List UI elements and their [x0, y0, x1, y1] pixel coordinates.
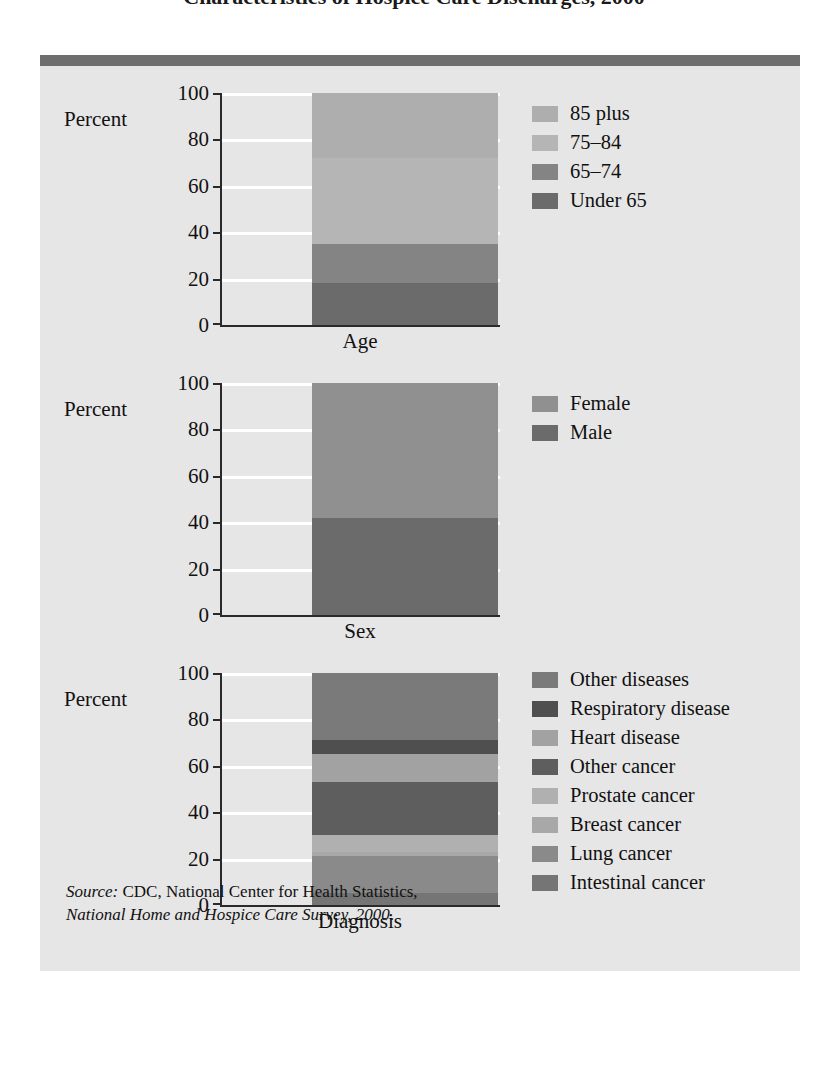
legend-swatch-icon [532, 164, 558, 180]
y-tick-label: 0 [199, 315, 210, 336]
source-note: Source: CDC, National Center for Health … [66, 881, 706, 927]
bar-segment [312, 283, 498, 325]
y-tick-label: 80 [188, 709, 209, 730]
legend-item[interactable]: Breast cancer [532, 810, 730, 839]
y-tick [213, 279, 220, 281]
y-tick [213, 429, 220, 431]
legend-swatch-icon [532, 846, 558, 862]
chart-age-x-axis [220, 325, 500, 327]
legend-item[interactable]: Lung cancer [532, 839, 730, 868]
source-line1: CDC, National Center for Health Statisti… [118, 882, 417, 901]
source-line2-tail: . [390, 905, 394, 924]
y-tick-label: 100 [178, 83, 210, 104]
y-tick-label: 60 [188, 175, 209, 196]
legend-label: 65–74 [570, 161, 621, 182]
legend-label: Heart disease [570, 727, 680, 748]
legend-swatch-icon [532, 701, 558, 717]
chart-diagnosis-ylabel: Percent [64, 687, 127, 712]
bar-segment [312, 244, 498, 283]
figure-panel: Percent 100 80 60 40 20 [40, 55, 800, 971]
figure-title-clipped: Characteristics of Hospice Care Discharg… [0, 0, 828, 16]
y-tick [213, 476, 220, 478]
legend-label: Other diseases [570, 669, 689, 690]
legend-swatch-icon [532, 425, 558, 441]
y-tick [213, 673, 220, 675]
y-tick-label: 80 [188, 419, 209, 440]
chart-sex-y-axis [220, 383, 222, 615]
chart-diagnosis-plot: 100 80 60 40 20 0 [220, 673, 500, 905]
legend-swatch-icon [532, 672, 558, 688]
stacked-bar-age [312, 93, 498, 325]
chart-age-plot: 100 80 60 40 20 0 [220, 93, 500, 325]
y-tick [213, 383, 220, 385]
legend-label: Respiratory disease [570, 698, 730, 719]
legend-label: Lung cancer [570, 843, 672, 864]
figure-page: Characteristics of Hospice Care Discharg… [0, 0, 828, 1088]
legend-label: 75–84 [570, 132, 621, 153]
bar-segment [312, 93, 498, 158]
legend-swatch-icon [532, 817, 558, 833]
chart-sex-plot: 100 80 60 40 20 0 [220, 383, 500, 615]
bar-segment [312, 158, 498, 244]
y-tick [213, 232, 220, 234]
chart-age: Percent 100 80 60 40 20 [40, 55, 800, 345]
legend-item[interactable]: Respiratory disease [532, 694, 730, 723]
bar-segment [312, 835, 498, 851]
y-tick [213, 613, 220, 615]
chart-sex-legend: FemaleMale [532, 389, 630, 447]
y-tick [213, 569, 220, 571]
legend-label: 85 plus [570, 103, 630, 124]
legend-label: Female [570, 393, 630, 414]
legend-item[interactable]: Other diseases [532, 665, 730, 694]
y-tick-label: 80 [188, 129, 209, 150]
legend-item[interactable]: Under 65 [532, 186, 647, 215]
y-tick-label: 60 [188, 755, 209, 776]
legend-label: Male [570, 422, 612, 443]
y-tick [213, 323, 220, 325]
legend-label: Under 65 [570, 190, 647, 211]
legend-item[interactable]: Male [532, 418, 630, 447]
y-tick-label: 40 [188, 802, 209, 823]
legend-swatch-icon [532, 788, 558, 804]
bar-segment [312, 383, 498, 518]
legend-swatch-icon [532, 106, 558, 122]
chart-diagnosis-legend: Other diseasesRespiratory diseaseHeart d… [532, 665, 730, 897]
y-tick [213, 93, 220, 95]
stacked-bar-diagnosis [312, 673, 498, 905]
legend-item[interactable]: Other cancer [532, 752, 730, 781]
legend-item[interactable]: 75–84 [532, 128, 647, 157]
y-tick [213, 719, 220, 721]
chart-sex-x-axis [220, 615, 500, 617]
legend-item[interactable]: 65–74 [532, 157, 647, 186]
legend-swatch-icon [532, 396, 558, 412]
bar-segment [312, 518, 498, 615]
source-prefix: Source: [66, 882, 118, 901]
y-tick [213, 859, 220, 861]
legend-item[interactable]: Heart disease [532, 723, 730, 752]
y-tick [213, 766, 220, 768]
legend-swatch-icon [532, 730, 558, 746]
legend-item[interactable]: Prostate cancer [532, 781, 730, 810]
y-tick-label: 20 [188, 848, 209, 869]
legend-label: Prostate cancer [570, 785, 695, 806]
chart-sex-ylabel: Percent [64, 397, 127, 422]
y-tick [213, 812, 220, 814]
y-tick-label: 0 [199, 605, 210, 626]
y-tick [213, 522, 220, 524]
legend-swatch-icon [532, 135, 558, 151]
chart-age-y-axis [220, 93, 222, 325]
legend-label: Breast cancer [570, 814, 681, 835]
chart-sex: Percent 100 80 60 40 20 [40, 345, 800, 635]
bar-segment [312, 782, 498, 835]
legend-item[interactable]: 85 plus [532, 99, 647, 128]
legend-item[interactable]: Female [532, 389, 630, 418]
source-line2: National Home and Hospice Care Survey, 2… [66, 905, 390, 924]
y-tick-label: 20 [188, 558, 209, 579]
y-tick-label: 20 [188, 268, 209, 289]
y-tick-label: 60 [188, 465, 209, 486]
bar-segment [312, 740, 498, 754]
y-tick-label: 40 [188, 222, 209, 243]
legend-label: Other cancer [570, 756, 675, 777]
stacked-bar-sex [312, 383, 498, 615]
legend-swatch-icon [532, 759, 558, 775]
